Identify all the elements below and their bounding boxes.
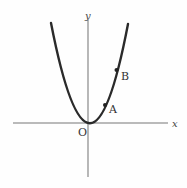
point-a <box>103 103 107 107</box>
point-b <box>115 68 119 72</box>
origin-label: O <box>78 126 87 139</box>
graph-svg: y x O B A <box>0 0 187 188</box>
x-axis-label: x <box>172 118 178 129</box>
point-b-label: B <box>121 70 129 83</box>
point-a-label: A <box>108 103 118 116</box>
y-axis-label: y <box>84 10 91 21</box>
parabola-diagram: y x O B A <box>0 0 187 188</box>
